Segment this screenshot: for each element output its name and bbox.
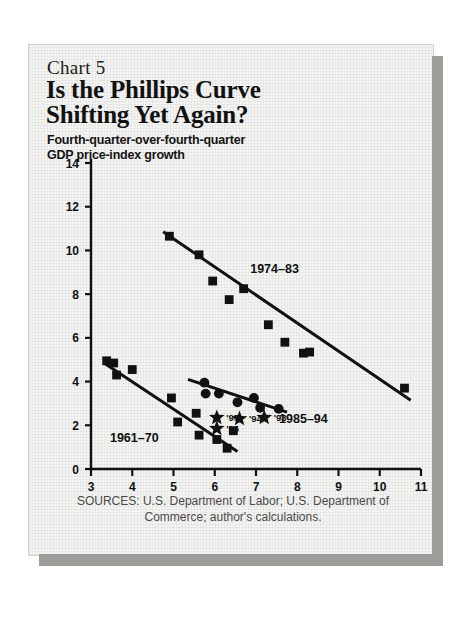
data-point-square (195, 250, 204, 259)
card-inner: Chart 5 Is the Phillips Curve Shifting Y… (29, 45, 433, 555)
data-point-circle (200, 378, 210, 388)
screenshot-root: Chart 5 Is the Phillips Curve Shifting Y… (0, 0, 465, 617)
data-point-square (195, 431, 204, 440)
data-point-circle (233, 397, 243, 407)
data-point-square (239, 284, 248, 293)
data-point-circle (255, 403, 265, 413)
series-label-1961-70: 1961–70 (110, 431, 159, 445)
data-point-square (280, 338, 289, 347)
chart-card: Chart 5 Is the Phillips Curve Shifting Y… (28, 44, 434, 556)
x-tick-label: 10 (373, 480, 387, 494)
sources-note: SOURCES: U.S. Department of Labor; U.S. … (45, 493, 421, 525)
x-tick-label: 9 (335, 480, 342, 494)
page-shadow-band (39, 554, 443, 566)
data-point-square (173, 418, 182, 427)
y-tick-label: 6 (72, 331, 79, 345)
data-point-square (128, 365, 137, 374)
data-point-square (165, 232, 174, 241)
data-point-year-label: '96 (226, 423, 239, 434)
data-point-square (223, 444, 232, 453)
data-point-square (305, 348, 314, 357)
data-point-square (400, 384, 409, 393)
x-tick-label: 11 (415, 480, 428, 494)
data-point-square (112, 371, 121, 380)
data-point-year-label: '93 (274, 412, 287, 423)
y-tick-label: 8 (72, 288, 79, 302)
page-spine-bar (432, 56, 443, 554)
data-point-circle (214, 389, 224, 399)
y-tick-label: 12 (66, 200, 80, 214)
plot-area: 02468101214345678910111961–701974–831985… (29, 45, 433, 555)
scatter-plot: 02468101214345678910111961–701974–831985… (29, 45, 433, 505)
x-tick-label: 6 (211, 480, 218, 494)
sources-line-1: SOURCES: U.S. Department of Labor; U.S. … (77, 494, 376, 508)
data-point-square (212, 435, 221, 444)
x-tick-label: 3 (88, 480, 95, 494)
x-tick-label: 5 (170, 480, 177, 494)
x-tick-label: 7 (253, 480, 260, 494)
x-tick-label: 8 (294, 480, 301, 494)
y-tick-label: 4 (72, 375, 79, 389)
data-point-circle (249, 393, 259, 403)
y-tick-label: 0 (72, 463, 79, 477)
series-label-1974-83: 1974–83 (250, 262, 299, 276)
data-point-square (167, 394, 176, 403)
x-tick-label: 4 (129, 480, 136, 494)
data-point-square (225, 295, 234, 304)
data-point-square (192, 409, 201, 418)
data-point-square (264, 320, 273, 329)
y-tick-label: 2 (72, 419, 79, 433)
data-point-circle (201, 389, 211, 399)
data-point-square (109, 359, 118, 368)
y-tick-label: 14 (66, 157, 80, 171)
y-tick-label: 10 (66, 244, 80, 258)
data-point-square (208, 277, 217, 286)
